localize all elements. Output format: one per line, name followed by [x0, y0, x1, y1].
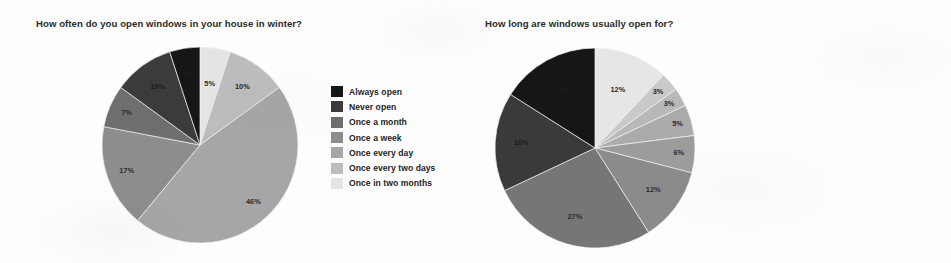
- legend-color-swatch: [331, 117, 343, 128]
- chart-panel-windows-open-frequency: How often do you open windows in your ho…: [0, 0, 475, 263]
- legend-item-label: Once every two days: [349, 163, 435, 173]
- legend-item[interactable]: Always open: [331, 84, 435, 99]
- legend-item-label: Once a month: [349, 117, 407, 127]
- legend-item-label: Once a week: [349, 133, 402, 143]
- pie-chart-windows-open-duration: 12%3%3%5%6%12%27%16%16%: [495, 48, 695, 248]
- legend-item[interactable]: Once a week: [331, 130, 435, 145]
- legend-item-label: Once every day: [349, 148, 413, 158]
- legend-item[interactable]: Once a month: [331, 115, 435, 130]
- pie-svg: [102, 47, 298, 243]
- chart-panel-windows-open-duration: How long are windows usually open for? 1…: [475, 0, 951, 263]
- legend-color-swatch: [331, 132, 343, 143]
- pie-svg: [495, 48, 695, 248]
- legend-item[interactable]: Never open: [331, 99, 435, 114]
- legend-item[interactable]: Once every two days: [331, 160, 435, 175]
- legend-color-swatch: [331, 178, 343, 189]
- chart-title-windows-open-frequency: How often do you open windows in your ho…: [36, 18, 302, 29]
- legend-color-swatch: [331, 101, 343, 112]
- chart-title-windows-open-duration: How long are windows usually open for?: [485, 18, 673, 29]
- legend-item-label: Always open: [349, 87, 402, 97]
- legend-item[interactable]: Once in two months: [331, 176, 435, 191]
- legend-color-swatch: [331, 163, 343, 174]
- legend-windows-open-frequency: Always openNever openOnce a monthOnce a …: [331, 84, 435, 191]
- legend-color-swatch: [331, 86, 343, 97]
- pie-chart-windows-open-frequency: 5%10%46%17%7%10%5%: [102, 47, 298, 243]
- legend-item-label: Once in two months: [349, 178, 432, 188]
- legend-color-swatch: [331, 147, 343, 158]
- legend-item-label: Never open: [349, 102, 396, 112]
- legend-item[interactable]: Once every day: [331, 145, 435, 160]
